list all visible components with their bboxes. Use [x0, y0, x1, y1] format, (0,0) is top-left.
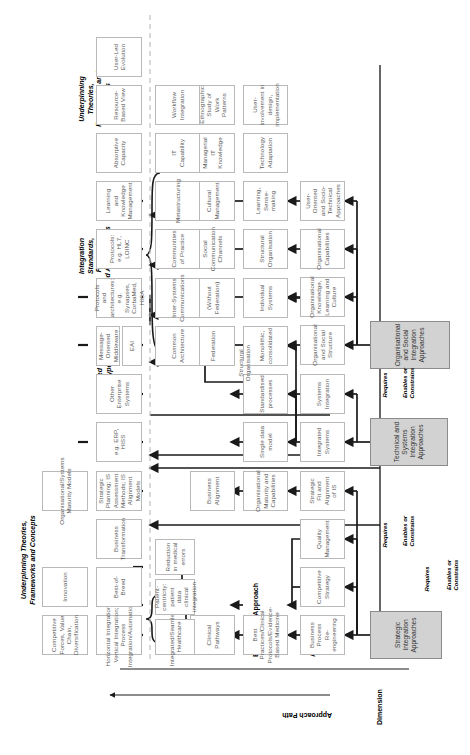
outcome-metastructuring[interactable]: Metastructuring: [155, 181, 200, 221]
path-business-alignment[interactable]: Business Alignment: [190, 471, 235, 511]
element-org-maturity[interactable]: Organisational Maturity and Capabilities: [243, 471, 288, 511]
ub-line1: Underpinning: [78, 53, 87, 145]
outcome-integrated-seamless[interactable]: Integrated/Seamless Healthcare: [155, 619, 195, 655]
outcome-workflow-integration[interactable]: Workflow Integration: [155, 85, 200, 125]
theory-org-systems-maturity[interactable]: Organisational/Systems Maturity Models: [42, 471, 88, 511]
approach-competitive-strategy[interactable]: Competitive Strategy: [300, 567, 345, 607]
underpinning-top-line2: Frameworks and Concepts: [29, 485, 38, 635]
ec2-line2: Constrains: [409, 355, 416, 411]
underpinning-top-line1: Underpinning Theories,: [20, 485, 29, 635]
element-structural-organisation-box[interactable]: Structural Organisation: [243, 229, 288, 269]
dimension-technical[interactable]: Technical and Systems Integration Approa…: [370, 418, 448, 466]
theory-business-transformation[interactable]: Business Transformation: [96, 519, 142, 559]
approach-org-capabilities[interactable]: Organisational Capabilities: [300, 229, 345, 269]
ec1-line1: Enables or: [402, 503, 409, 559]
theory-absorptive-capacity[interactable]: Absorptive Capacity: [96, 133, 142, 173]
approach-integrated-systems[interactable]: Integrated Systems: [300, 422, 345, 462]
column-header-approach-path: Approach Path: [282, 712, 332, 719]
outcome-communities-practice[interactable]: Communities of Practice: [155, 229, 200, 269]
element-technology-adaptation[interactable]: Technology Adaptation: [243, 133, 288, 173]
theory-innovation[interactable]: Innovation: [42, 567, 88, 607]
relation-requires-1: Requires: [382, 511, 389, 559]
element-user-involvement[interactable]: User-involvement in design, implementati…: [243, 85, 288, 125]
theory-learning-knowledge-mgmt[interactable]: Learning and Knowledge Management: [96, 181, 142, 221]
outcome-common-architecture[interactable]: Common Architecture: [155, 326, 200, 366]
dimension-strategic[interactable]: Strategic Integration Approaches: [370, 611, 442, 659]
theory-message-oriented[interactable]: Message-Oriented Middleware: [96, 326, 120, 366]
theory-protocols-architectures[interactable]: Protocols and architectures: e.g. Synaps…: [96, 278, 142, 318]
path-clinical-pathways[interactable]: Clinical Pathways: [190, 615, 235, 655]
ub-line2: Theories,: [87, 53, 96, 145]
ec3-line1: Enables or: [446, 547, 453, 603]
outcome-inter-systems-comms[interactable]: Inter-Systems Communications: [155, 278, 200, 318]
approach-bpr[interactable]: Business Process Re-engineering: [300, 615, 345, 655]
outcome-patient-centricity[interactable]: Patient-centricity: patient data clinica…: [155, 579, 195, 615]
relation-requires-3: Requires: [424, 555, 431, 603]
approach-org-social-structure[interactable]: Organisational and Social Structure: [300, 325, 345, 365]
relation-enables-constrains-1: Enables or Constrains: [402, 503, 416, 559]
is-line1: Integration: [78, 217, 87, 295]
element-learning-sensemaking[interactable]: Learning, Sense-making: [243, 181, 288, 221]
theory-user-led-evolution[interactable]: User-Led Evolution: [96, 37, 142, 77]
approach-strategic-fit[interactable]: Strategic Fit and Alignment of IS: [300, 471, 345, 511]
column-header-dimension: Dimension: [376, 689, 383, 725]
theory-competitive-forces[interactable]: Competitive Forces, Value Chain, Diversi…: [42, 615, 88, 655]
theory-eai[interactable]: EAI: [122, 326, 142, 366]
relation-enables-constrains-2: Enables or Constrains: [402, 355, 416, 411]
outcome-reduction-errors[interactable]: Reduction in medical errors: [155, 539, 195, 575]
ec3-line2: Constrains: [453, 547, 460, 603]
element-best-practices[interactable]: Best Practices/Clinical Protocols/Eviden…: [243, 615, 288, 655]
theory-erp-hiss[interactable]: e.g. ERP, HISS: [96, 422, 142, 462]
ec2-line1: Enables or: [402, 355, 409, 411]
theory-best-of-breed[interactable]: Best-of-Breed: [96, 567, 142, 607]
approach-user-oriented[interactable]: User-Oriented and Socio-Technical Approa…: [300, 181, 345, 221]
theory-resource-based-view[interactable]: Resource-Based View: [96, 85, 142, 125]
relation-requires-2: Requires: [382, 365, 389, 405]
approach-quality-management[interactable]: Quality Management: [300, 519, 345, 559]
relation-enables-constrains-3: Enables or Constrains: [446, 547, 460, 603]
approach-systems-integration[interactable]: Systems Integration: [300, 374, 345, 414]
element-structural-organisation[interactable]: Structural Organisation: [243, 361, 245, 365]
element-single-data-model[interactable]: Single data model: [243, 422, 288, 462]
diagram-canvas: Dimension Approach Elements of Approach …: [0, 0, 470, 755]
theory-other-enterprise[interactable]: Other Enterprise Systems: [96, 374, 142, 414]
outcome-it-capability[interactable]: IT Capability: [155, 133, 200, 173]
theory-horizontal-integration[interactable]: Horizontal Integration; Vertical Integra…: [96, 615, 142, 655]
theory-strategic-planning[interactable]: Strategic Planning; IS Assessment Method…: [96, 471, 142, 511]
approach-org-knowledge[interactable]: Organisational Knowledge, Learning and C…: [300, 277, 345, 317]
ec1-line2: Constrains: [409, 503, 416, 559]
theory-protocols-hl7[interactable]: Protocols: e.g. HL7, LOINC: [96, 229, 142, 269]
section-header-underpinning-top: Underpinning Theories, Frameworks and Co…: [20, 485, 37, 635]
element-individual-systems[interactable]: Individual Systems: [243, 278, 288, 318]
